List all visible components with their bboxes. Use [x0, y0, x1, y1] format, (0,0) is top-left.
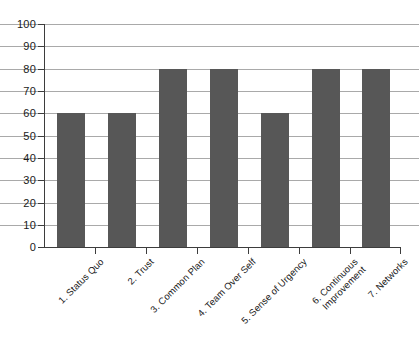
x-label-common-plan-line1: 3. Common Plan	[148, 256, 207, 315]
y-tick-label-80: 80	[8, 64, 36, 75]
x-label-continuous-improvement: 6. Continuous Improvement	[297, 256, 368, 327]
y-tick-label-70: 70	[8, 86, 36, 97]
y-tick-label-0: 0	[8, 242, 36, 253]
x-label-networks-line1: 7. Networks	[366, 256, 410, 300]
x-tick-mark-7	[400, 248, 401, 254]
bar-sense-of-urgency[interactable]	[261, 113, 289, 247]
x-tick-mark-6	[350, 248, 351, 254]
x-tick-mark-2	[146, 248, 147, 254]
x-axis-line	[44, 247, 401, 248]
bar-networks[interactable]	[362, 69, 390, 247]
x-label-status-quo: 1. Status Quo	[27, 256, 105, 334]
bar-common-plan[interactable]	[159, 69, 187, 247]
x-label-trust: 2. Trust	[97, 256, 156, 315]
y-tick-label-30: 30	[8, 175, 36, 186]
y-tick-mark-0	[38, 247, 44, 248]
bar-chart: 100 90 80 70 60 50 40 30 20 10 0 1. Stat…	[0, 0, 419, 357]
x-label-status-quo-line1: 1. Status Quo	[56, 256, 106, 306]
bars-container	[44, 24, 400, 247]
x-tick-mark-4	[248, 248, 249, 254]
x-label-networks: 7. Networks	[355, 256, 410, 311]
x-label-trust-line1: 2. Trust	[125, 256, 156, 287]
y-tick-label-50: 50	[8, 131, 36, 142]
y-tick-label-40: 40	[8, 153, 36, 164]
y-tick-label-10: 10	[8, 220, 36, 231]
bar-trust[interactable]	[108, 113, 136, 247]
x-tick-mark-1	[95, 248, 96, 254]
y-tick-label-100: 100	[8, 19, 36, 30]
bar-team-over-self[interactable]	[210, 69, 238, 247]
x-tick-mark-3	[197, 248, 198, 254]
y-tick-label-90: 90	[8, 41, 36, 52]
bar-status-quo[interactable]	[57, 113, 85, 247]
bar-continuous-improvement[interactable]	[312, 69, 340, 247]
y-tick-label-20: 20	[8, 198, 36, 209]
x-label-sense-of-urgency: 5. Sense of Urgency	[215, 256, 308, 349]
x-tick-mark-5	[299, 248, 300, 254]
y-tick-label-60: 60	[8, 108, 36, 119]
